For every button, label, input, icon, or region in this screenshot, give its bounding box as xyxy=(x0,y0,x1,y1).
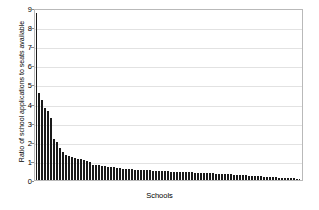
bar xyxy=(197,173,199,180)
bar xyxy=(140,170,142,180)
bar xyxy=(137,170,139,180)
bar xyxy=(62,152,64,180)
bar xyxy=(242,175,244,180)
bar xyxy=(89,162,91,180)
bar xyxy=(38,93,40,180)
bar-series xyxy=(35,10,302,180)
bar xyxy=(203,173,205,180)
bar xyxy=(173,172,175,180)
bar xyxy=(44,108,46,180)
y-tick-mark xyxy=(31,85,34,86)
bar xyxy=(116,168,118,180)
bar xyxy=(74,158,76,180)
bar xyxy=(281,178,283,180)
bar xyxy=(302,179,303,180)
bar xyxy=(278,178,280,180)
bar xyxy=(158,171,160,180)
y-tick-mark xyxy=(31,143,34,144)
bar xyxy=(47,111,49,180)
bar xyxy=(191,172,193,180)
bar xyxy=(227,174,229,180)
bar xyxy=(233,175,235,180)
bar xyxy=(236,175,238,180)
bar xyxy=(254,176,256,180)
bar xyxy=(125,169,127,180)
bar xyxy=(77,159,79,180)
bar xyxy=(224,174,226,180)
bar xyxy=(65,155,67,180)
bar xyxy=(122,169,124,180)
bar xyxy=(107,167,109,180)
bar xyxy=(86,161,88,180)
y-tick-mark xyxy=(31,105,34,106)
bar xyxy=(59,148,61,180)
bar xyxy=(290,178,292,180)
x-axis-label: Schools xyxy=(0,191,319,200)
chart-figure: Ratio of school applications to seats av… xyxy=(0,0,319,210)
bar xyxy=(263,177,265,180)
bar xyxy=(36,13,38,180)
bar xyxy=(68,156,70,180)
bar xyxy=(167,171,169,180)
bar xyxy=(179,172,181,180)
bar xyxy=(299,179,301,180)
bar xyxy=(83,160,85,180)
bar xyxy=(284,178,286,180)
bar xyxy=(296,179,298,180)
bar xyxy=(221,174,223,180)
bar xyxy=(182,172,184,180)
bar xyxy=(194,173,196,180)
y-tick-mark xyxy=(31,28,34,29)
y-tick-mark xyxy=(31,162,34,163)
bar xyxy=(245,175,247,180)
bar xyxy=(53,139,55,180)
bar xyxy=(293,178,295,180)
bar xyxy=(56,142,58,180)
bar xyxy=(131,169,133,180)
bar xyxy=(260,176,262,180)
bar xyxy=(92,165,94,180)
y-tick-mark xyxy=(31,47,34,48)
bar xyxy=(248,176,250,180)
bar xyxy=(170,172,172,180)
bar xyxy=(146,170,148,180)
bar xyxy=(188,172,190,180)
bar xyxy=(110,167,112,180)
bar xyxy=(251,176,253,180)
bar xyxy=(185,172,187,180)
bar xyxy=(155,171,157,180)
bar xyxy=(176,172,178,180)
bar xyxy=(215,174,217,180)
bar xyxy=(80,159,82,180)
bar xyxy=(104,166,106,180)
bar xyxy=(200,173,202,180)
bar xyxy=(239,175,241,180)
bar xyxy=(218,174,220,180)
plot-area xyxy=(34,9,303,181)
bar xyxy=(41,100,43,180)
bar xyxy=(98,165,100,180)
bar xyxy=(272,177,274,180)
bar xyxy=(269,177,271,180)
bar xyxy=(212,173,214,180)
bar xyxy=(209,173,211,180)
y-tick-mark xyxy=(31,66,34,67)
bar xyxy=(128,169,130,180)
y-tick-mark xyxy=(31,181,34,182)
bar xyxy=(152,171,154,180)
bar xyxy=(275,177,277,180)
bar xyxy=(50,118,52,180)
bar xyxy=(71,157,73,180)
bar xyxy=(266,177,268,180)
bar xyxy=(134,170,136,181)
bar xyxy=(95,165,97,180)
bar xyxy=(164,171,166,180)
bar xyxy=(119,168,121,180)
bar xyxy=(287,178,289,180)
bar xyxy=(149,170,151,180)
bar xyxy=(206,173,208,180)
bar xyxy=(230,174,232,180)
bar xyxy=(161,171,163,180)
y-tick-mark xyxy=(31,9,34,10)
bar xyxy=(113,167,115,180)
